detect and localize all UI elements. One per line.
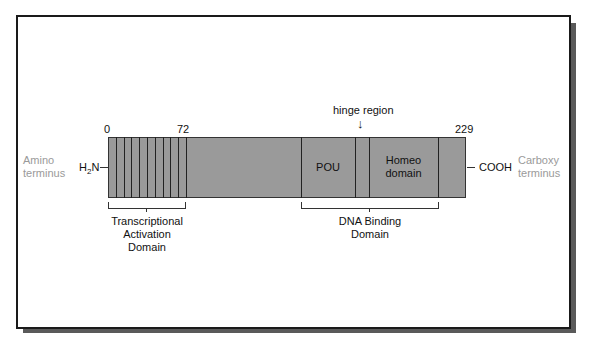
- dna-binding-domain-label: DNA Binding Domain: [330, 215, 410, 241]
- activation-stripe: [139, 137, 140, 198]
- position-72: 72: [177, 123, 189, 136]
- activation-stripe: [178, 137, 179, 198]
- activation-stripe: [147, 137, 148, 198]
- dna-bracket-right: [438, 202, 439, 209]
- dna-binding-bracket: [301, 208, 439, 209]
- activation-bracket-left: [108, 202, 109, 209]
- activation-line1: Transcriptional: [107, 215, 187, 228]
- hinge-start-divider: [355, 137, 356, 198]
- activation-domain-end: [186, 137, 187, 198]
- c-terminus-connector: [467, 167, 475, 168]
- amino-terminus-label: Amino terminus: [23, 154, 65, 180]
- dna-line1: DNA Binding: [330, 215, 410, 228]
- activation-stripe: [155, 137, 156, 198]
- homeo-line1: Homeo: [369, 154, 438, 167]
- activation-line3: Domain: [107, 241, 187, 254]
- dna-bracket-center: [369, 208, 370, 212]
- n-terminus-label: H2N: [79, 161, 99, 178]
- n-h: H: [79, 161, 87, 173]
- n-n: N: [91, 161, 99, 173]
- carboxy-line1: Carboxy: [518, 154, 560, 167]
- hinge-arrow-icon: ↓: [357, 117, 364, 130]
- carboxy-terminus-label: Carboxy terminus: [518, 154, 560, 180]
- homeo-end-divider: [438, 137, 439, 198]
- homeo-domain-label: Homeo domain: [369, 154, 438, 180]
- activation-stripe: [116, 137, 117, 198]
- activation-stripe: [170, 137, 171, 198]
- dna-line2: Domain: [330, 228, 410, 241]
- c-terminus-label: COOH: [479, 161, 512, 174]
- position-start: 0: [104, 123, 110, 136]
- carboxy-line2: terminus: [518, 167, 560, 180]
- position-end: 229: [455, 123, 473, 136]
- activation-stripe: [124, 137, 125, 198]
- activation-line2: Activation: [107, 228, 187, 241]
- pou-domain-label: POU: [301, 161, 355, 174]
- activation-bracket: [108, 208, 186, 209]
- activation-domain-label: Transcriptional Activation Domain: [107, 215, 187, 254]
- amino-line1: Amino: [23, 154, 65, 167]
- amino-line2: terminus: [23, 167, 65, 180]
- homeo-line2: domain: [369, 167, 438, 180]
- activation-stripe: [163, 137, 164, 198]
- activation-bracket-center: [146, 208, 147, 212]
- activation-bracket-right: [185, 202, 186, 209]
- dna-bracket-left: [301, 202, 302, 209]
- n-terminus-connector: [100, 167, 108, 168]
- activation-stripe: [131, 137, 132, 198]
